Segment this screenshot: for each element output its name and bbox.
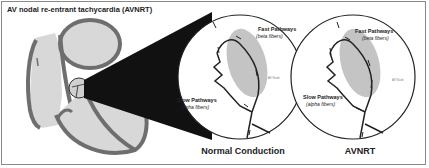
slow-pathway-label: Slow Pathways — [177, 97, 217, 103]
fast-pathway-sublabel: (beta fibers) — [256, 33, 283, 39]
slow-pathway-sublabel: (alpha fibers) — [306, 101, 336, 107]
av-node-label: AV Node — [392, 78, 404, 82]
slow-pathway-sublabel: (alpha fibers) — [180, 104, 210, 110]
fast-pathway-label: Fast Pathways — [355, 28, 393, 34]
panel-avnrt: Fast Pathways (beta fibers) Slow Pathway… — [291, 15, 415, 139]
fast-pathway-sublabel: (beta fibers) — [362, 35, 389, 41]
fast-pathway-label: Fast Pathways — [258, 26, 296, 32]
av-node-label: AV Node — [268, 76, 280, 80]
panel-normal-conduction: Fast Pathways (beta fibers) Slow Pathway… — [177, 15, 302, 139]
slow-pathway-label: Slow Pathways — [303, 94, 343, 100]
caption-normal-conduction: Normal Conduction — [188, 146, 298, 156]
avnrt-diagram: Fast Pathways (beta fibers) Slow Pathway… — [0, 0, 429, 168]
caption-avnrt: AVNRT — [330, 146, 390, 156]
